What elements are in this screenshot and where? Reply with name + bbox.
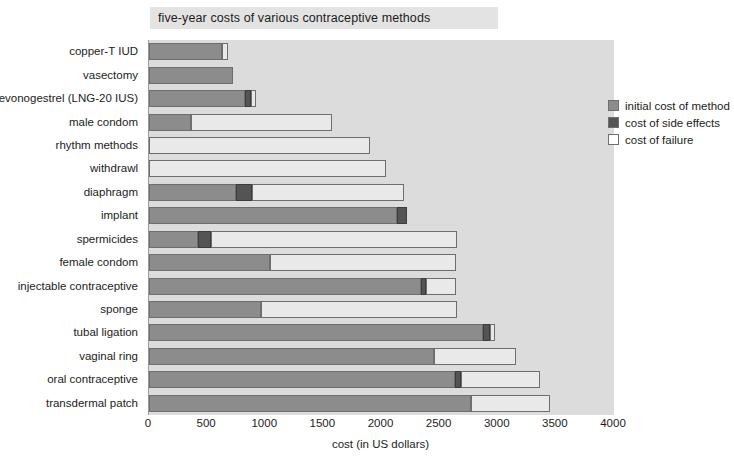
y-axis-label: oral contraceptive <box>47 371 138 388</box>
bar-segment <box>149 67 233 84</box>
bar-segment <box>198 231 211 248</box>
bar-row <box>149 254 614 271</box>
bar-segment <box>149 160 386 177</box>
x-axis-tick-label: 2000 <box>368 417 394 429</box>
bar-segment <box>149 207 397 224</box>
y-axis-label: transdermal patch <box>46 395 138 412</box>
legend-item[interactable]: cost of failure <box>608 131 734 147</box>
bar-segment <box>149 395 471 412</box>
bar-segment <box>191 114 332 131</box>
bar-segment <box>490 324 495 341</box>
y-axis-label: vasectomy <box>83 67 138 84</box>
bar-segment <box>149 254 270 271</box>
bar-segment <box>149 324 483 341</box>
y-axis-label: sponge <box>100 301 138 318</box>
bar-row <box>149 395 614 412</box>
bar-row <box>149 43 614 60</box>
bar-segment <box>149 348 434 365</box>
bar-row <box>149 324 614 341</box>
white-swatch-icon <box>608 134 619 145</box>
bar-segment <box>149 301 261 318</box>
bar-segment <box>397 207 407 224</box>
bar-segment <box>149 371 455 388</box>
y-axis-label: diaphragm <box>84 184 138 201</box>
bar-segment <box>270 254 456 271</box>
y-axis-label: implant <box>101 207 138 224</box>
legend-label: cost of side effects <box>625 117 720 129</box>
bar-row <box>149 301 614 318</box>
bar-segment <box>149 114 191 131</box>
bar-row <box>149 371 614 388</box>
bar-segment <box>251 90 256 107</box>
y-axis-label: withdrawl <box>90 160 138 177</box>
bar-row <box>149 160 614 177</box>
bar-row <box>149 90 614 107</box>
y-axis-label-group: copper-T IUDvasectomylevonogestrel (LNG-… <box>0 40 144 415</box>
y-axis-label: levonogestrel (LNG-20 IUS) <box>0 90 138 107</box>
bar-row <box>149 348 614 365</box>
chart-legend: initial cost of methodcost of side effec… <box>608 97 734 148</box>
y-axis-label: rhythm methods <box>56 137 138 154</box>
bar-row <box>149 278 614 295</box>
x-axis-tick-label: 4000 <box>600 417 626 429</box>
y-axis-label: tubal ligation <box>73 324 138 341</box>
bar-segment <box>471 395 550 412</box>
bar-segment <box>149 43 222 60</box>
bar-group <box>149 40 614 415</box>
y-axis-label: injectable contraceptive <box>18 278 138 295</box>
bar-segment <box>149 90 245 107</box>
bar-segment <box>461 371 540 388</box>
plot-area: initial cost of methodcost of side effec… <box>148 40 614 415</box>
bar-row <box>149 207 614 224</box>
bar-row <box>149 137 614 154</box>
y-axis-label: copper-T IUD <box>69 43 138 60</box>
x-axis-tick-label: 3500 <box>542 417 568 429</box>
bar-segment <box>149 231 198 248</box>
y-axis-label: male condom <box>69 114 138 131</box>
x-axis-tick-group: 05001000150020002500300035004000 <box>148 415 613 435</box>
x-axis-title: cost (in US dollars) <box>148 438 613 450</box>
y-axis-label: spermicides <box>77 231 138 248</box>
x-axis-tick-label: 1500 <box>310 417 336 429</box>
y-axis-label: female condom <box>59 254 138 271</box>
bar-segment <box>426 278 456 295</box>
legend-label: cost of failure <box>625 134 693 146</box>
bar-row <box>149 184 614 201</box>
light-gray-swatch-icon <box>608 100 619 111</box>
bar-segment <box>149 137 370 154</box>
legend-label: initial cost of method <box>625 100 730 112</box>
bar-segment <box>483 324 490 341</box>
bar-segment <box>211 231 457 248</box>
legend-item[interactable]: initial cost of method <box>608 97 734 113</box>
legend-item[interactable]: cost of side effects <box>608 114 734 130</box>
bar-segment <box>252 184 403 201</box>
bar-segment <box>434 348 516 365</box>
bar-row <box>149 231 614 248</box>
x-axis-tick-label: 0 <box>145 417 151 429</box>
bar-segment <box>261 301 457 318</box>
bar-segment <box>149 184 236 201</box>
chart-title: five-year costs of various contraceptive… <box>150 7 498 29</box>
bar-segment <box>222 43 228 60</box>
bar-segment <box>236 184 252 201</box>
dark-gray-swatch-icon <box>608 117 619 128</box>
bar-segment <box>149 278 421 295</box>
x-axis-tick-label: 1000 <box>251 417 277 429</box>
y-axis-label: vaginal ring <box>79 348 138 365</box>
bar-row <box>149 67 614 84</box>
x-axis-tick-label: 2500 <box>426 417 452 429</box>
x-axis-tick-label: 3000 <box>484 417 510 429</box>
x-axis-tick-label: 500 <box>197 417 216 429</box>
bar-row <box>149 114 614 131</box>
